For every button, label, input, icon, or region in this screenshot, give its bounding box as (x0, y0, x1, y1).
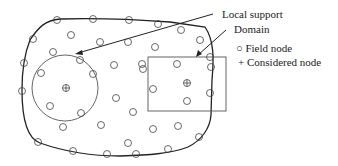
local-support-label: Local support (222, 8, 283, 20)
field-node (60, 124, 67, 131)
field-nodes (19, 16, 215, 158)
field-node (50, 49, 57, 56)
considered-node (63, 85, 70, 92)
field-node (150, 86, 157, 93)
domain-arrowhead (196, 50, 202, 57)
field-node (174, 61, 181, 68)
field-node (150, 126, 157, 133)
field-node (140, 66, 147, 73)
field-node (104, 151, 111, 158)
legend-field-node: ○ Field node (236, 42, 292, 54)
field-node-icon: ○ (236, 42, 243, 54)
field-node (97, 39, 104, 46)
field-node (175, 123, 182, 130)
considered-node (184, 80, 191, 87)
field-node (184, 98, 191, 105)
field-node (125, 39, 132, 46)
legend-considered-node: + Considered node (238, 56, 321, 68)
field-node (152, 44, 159, 51)
field-node (38, 70, 45, 77)
field-node (139, 61, 146, 68)
field-node (165, 146, 172, 153)
field-node (130, 109, 137, 116)
field-node (90, 71, 97, 78)
considered-node-icon: + (238, 56, 244, 68)
field-node (78, 110, 85, 117)
domain-boundary (22, 19, 213, 156)
domain-diagram (0, 0, 338, 166)
field-node (113, 95, 120, 102)
domain-label: Domain (234, 23, 269, 35)
field-node-text: Field node (245, 42, 292, 54)
field-node (47, 103, 54, 110)
field-node (98, 122, 105, 129)
field-node (178, 27, 185, 34)
considered-node-text: Considered node (247, 56, 321, 68)
field-node (111, 62, 118, 69)
field-node (125, 140, 132, 147)
field-node (68, 32, 75, 39)
field-node (207, 90, 214, 97)
field-node (133, 151, 140, 158)
local-support-arrowhead (75, 50, 83, 55)
field-node (197, 37, 204, 44)
